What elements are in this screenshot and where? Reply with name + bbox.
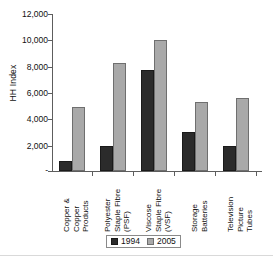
y-tick-label: 12,000 — [4, 10, 48, 19]
category-label-line: Products — [81, 198, 91, 232]
legend-label: 2005 — [157, 237, 176, 246]
y-axis-tick — [48, 40, 52, 41]
legend-label: 1994 — [121, 237, 140, 246]
bar-1994-4 — [182, 132, 195, 171]
category-label-line: Picture — [235, 197, 245, 232]
legend-swatch-icon — [147, 238, 154, 245]
legend-item-2005: 2005 — [147, 237, 176, 246]
plot-area — [52, 14, 262, 172]
bar-2005-4 — [195, 102, 208, 171]
y-axis-tick — [48, 14, 52, 15]
y-tick-label: 4,000 — [4, 115, 48, 124]
y-axis-tick — [48, 93, 52, 94]
y-axis-tick — [48, 146, 52, 147]
bar-1994-1 — [59, 161, 72, 171]
category-label-line: Batteries — [199, 200, 209, 232]
y-axis-tick-labels: 12,000 10,000 8,000 6,000 4,000 2,000 - — [4, 14, 48, 172]
bar-2005-5 — [236, 98, 249, 171]
legend: 1994 2005 — [106, 235, 181, 248]
x-axis-category-label: Copper &CopperProducts — [62, 198, 91, 232]
category-label-line: Staple Fibre — [153, 189, 163, 232]
y-tick-label: - — [4, 166, 48, 175]
y-tick-label: 10,000 — [4, 36, 48, 45]
category-label-line: Copper — [71, 198, 81, 232]
bar-1994-2 — [100, 146, 113, 171]
y-axis-tick — [48, 67, 52, 68]
category-label-line: Storage — [190, 200, 200, 232]
y-axis-tick — [48, 119, 52, 120]
bar-2005-1 — [72, 107, 85, 171]
bar-1994-3 — [141, 70, 154, 171]
bar-chart-figure: HH Index 12,000 10,000 8,000 6,000 4,000… — [0, 0, 273, 258]
bar-2005-2 — [113, 63, 126, 171]
legend-item-1994: 1994 — [111, 237, 140, 246]
category-label-line: Copper & — [62, 198, 72, 232]
x-axis-category-label: TelevisionPictureTubes — [226, 197, 255, 232]
x-axis-category-labels: Copper &CopperProductsPolyesterStaple Fi… — [52, 172, 262, 234]
y-tick-label: 2,000 — [4, 142, 48, 151]
category-label-line: (PSF) — [122, 189, 132, 232]
category-label-line: Polyester — [103, 189, 113, 232]
legend-swatch-icon — [111, 238, 118, 245]
y-tick-label: 6,000 — [4, 89, 48, 98]
x-axis-category-label: PolyesterStaple Fibre(PSF) — [103, 189, 132, 232]
category-label-line: Staple Fibre — [112, 189, 122, 232]
category-label-line: (VSF) — [163, 189, 173, 232]
category-label-line: Television — [226, 197, 236, 232]
scan-artifact-line — [0, 255, 273, 256]
y-tick-label: 8,000 — [4, 63, 48, 72]
x-axis-category-label: ViscoseStaple Fibre(VSF) — [144, 189, 173, 232]
category-label-line: Tubes — [245, 197, 255, 232]
bar-2005-3 — [154, 40, 167, 171]
y-axis-line — [52, 14, 53, 172]
x-axis-category-label: StorageBatteries — [190, 200, 209, 232]
category-label-line: Viscose — [144, 189, 154, 232]
bar-1994-5 — [223, 146, 236, 171]
